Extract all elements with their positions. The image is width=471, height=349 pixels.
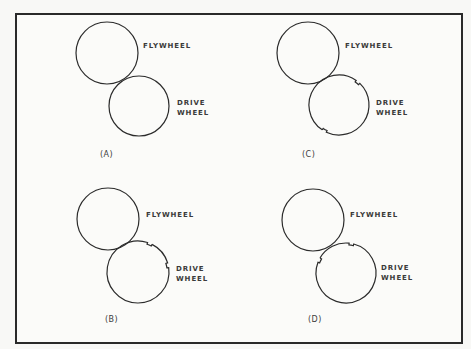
wheel-diagrams bbox=[0, 0, 471, 349]
flywheel-circle bbox=[76, 22, 138, 84]
flywheel-label: FLYWHEEL bbox=[345, 41, 393, 51]
drive-wheel-outline bbox=[107, 241, 169, 303]
flywheel-circle bbox=[282, 189, 344, 251]
drive-wheel-label: DRIVE WHEEL bbox=[381, 263, 413, 283]
panel-c bbox=[277, 22, 369, 135]
drive-wheel-label-line2: WHEEL bbox=[177, 108, 209, 118]
drive-wheel-outline bbox=[309, 75, 369, 135]
panel-caption: (C) bbox=[302, 150, 315, 160]
panel-caption: (B) bbox=[105, 315, 118, 325]
drive-wheel-label-line2: WHEEL bbox=[381, 273, 413, 283]
drive-wheel-label-line1: DRIVE bbox=[381, 263, 413, 273]
flywheel-label: FLYWHEEL bbox=[146, 210, 194, 220]
drive-wheel-label-line1: DRIVE bbox=[177, 98, 209, 108]
drive-wheel-label-line2: WHEEL bbox=[176, 274, 208, 284]
drive-wheel-label-line1: DRIVE bbox=[176, 264, 208, 274]
panel-caption: (A) bbox=[100, 150, 113, 160]
flywheel-circle bbox=[77, 188, 139, 250]
flywheel-label: FLYWHEEL bbox=[143, 41, 191, 51]
panel-a bbox=[76, 22, 169, 136]
panel-b bbox=[77, 188, 169, 303]
drive-wheel-label-line1: DRIVE bbox=[376, 98, 408, 108]
panel-d bbox=[282, 189, 376, 303]
drive-wheel-label: DRIVE WHEEL bbox=[176, 264, 208, 284]
flywheel-circle bbox=[277, 22, 339, 84]
drive-wheel-outline bbox=[316, 243, 376, 303]
panel-caption: (D) bbox=[308, 315, 322, 325]
drive-wheel-outline bbox=[109, 76, 169, 136]
flywheel-label: FLYWHEEL bbox=[350, 210, 398, 220]
figure: FLYWHEEL DRIVE WHEEL (A) FLYWHEEL DRIVE … bbox=[0, 0, 471, 349]
drive-wheel-label: DRIVE WHEEL bbox=[376, 98, 408, 118]
drive-wheel-label: DRIVE WHEEL bbox=[177, 98, 209, 118]
drive-wheel-label-line2: WHEEL bbox=[376, 108, 408, 118]
